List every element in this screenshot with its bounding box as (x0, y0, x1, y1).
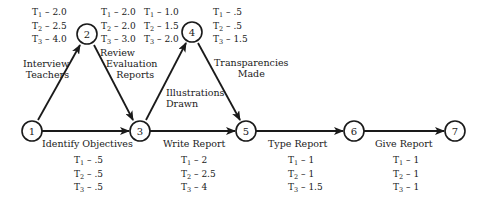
node-4: 4 (182, 22, 202, 42)
node-1: 1 (22, 121, 42, 141)
node-6: 6 (344, 121, 364, 141)
svg-text:1: 1 (29, 126, 35, 137)
svg-text:3: 3 (137, 126, 143, 137)
times-transparencies-made: T1 – .5 T2 – .5 T3 – 1.5 (213, 7, 248, 48)
label-illustrations-drawn: Illustrations Drawn (166, 87, 224, 109)
edge-1-2 (38, 45, 80, 120)
times-type-report: T1 – 1 T2 – 1 T3 – 1.5 (288, 155, 323, 196)
times-identify-objectives: T1 – .5 T2 – .5 T3 – .5 (74, 155, 103, 196)
node-2: 2 (77, 24, 97, 44)
svg-text:7: 7 (452, 126, 458, 137)
times-write-report: T1 – 2 T2 – 2.5 T3 – 4 (181, 155, 216, 196)
svg-text:2: 2 (84, 29, 90, 40)
label-review-evaluation-reports: Review Evaluation Reports (100, 47, 157, 80)
label-transparencies-made: Transparencies Made (214, 57, 288, 79)
label-interview-teachers: Interview Teachers (23, 58, 69, 80)
times-illustrations-drawn: T1 – 1.0 T2 – 1.5 T3 – 2.0 (144, 7, 179, 48)
times-review-evaluation-reports: T1 – 2.0 T2 – 2.0 T3 – 3.0 (101, 7, 136, 48)
label-identify-objectives: Identify Objectives (42, 138, 133, 149)
label-give-report: Give Report (375, 138, 433, 149)
times-interview-teachers: T1 – 2.0 T2 – 2.5 T3 – 4.0 (32, 7, 67, 48)
svg-text:5: 5 (243, 126, 249, 137)
svg-text:4: 4 (189, 27, 195, 38)
times-give-report: T1 – 1 T2 – 1 T3 – 1 (393, 155, 419, 196)
node-3: 3 (130, 121, 150, 141)
label-type-report: Type Report (268, 138, 327, 149)
label-write-report: Write Report (163, 138, 225, 149)
node-7: 7 (445, 121, 465, 141)
node-5: 5 (236, 121, 256, 141)
svg-text:6: 6 (351, 126, 357, 137)
